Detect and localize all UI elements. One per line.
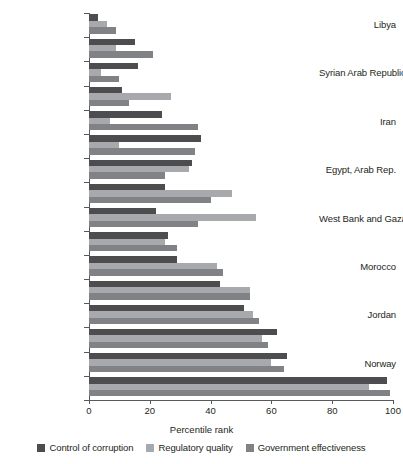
bar-row	[89, 172, 393, 178]
x-axis-tick-label: 100	[385, 405, 401, 416]
bar-group	[89, 61, 393, 85]
bar	[89, 293, 250, 299]
bar-row	[89, 148, 393, 154]
legend-item: Regulatory quality	[146, 442, 232, 453]
bar	[89, 172, 165, 178]
bar	[89, 51, 153, 57]
bar	[89, 100, 129, 106]
bar-row	[89, 245, 393, 251]
legend-label: Control of corruption	[49, 442, 133, 453]
bar-group	[89, 110, 393, 134]
bar-group	[89, 13, 393, 37]
bar-row	[89, 342, 393, 348]
bar-group	[89, 182, 393, 206]
x-axis-tick-label: 80	[327, 405, 338, 416]
bar-row	[89, 76, 393, 82]
bar	[89, 390, 390, 396]
bar-group	[89, 231, 393, 255]
bar-row	[89, 124, 393, 130]
bar-row	[89, 27, 393, 33]
bar	[89, 245, 177, 251]
bar	[89, 342, 268, 348]
legend-swatch-icon	[37, 444, 45, 452]
bar-row	[89, 318, 393, 324]
bar	[89, 269, 223, 275]
legend-item: Control of corruption	[37, 442, 133, 453]
bar	[89, 221, 198, 227]
x-axis-tick-label: 0	[86, 405, 91, 416]
bar-group	[89, 37, 393, 61]
x-axis-tick-label: 20	[145, 405, 156, 416]
bar-row	[89, 100, 393, 106]
legend-label: Government effectiveness	[258, 442, 366, 453]
bar-group	[89, 158, 393, 182]
bar-row	[89, 51, 393, 57]
bar-group	[89, 134, 393, 158]
bar	[89, 197, 211, 203]
bar-row	[89, 366, 393, 372]
bar	[89, 27, 116, 33]
plot-area	[89, 13, 393, 400]
bar-group	[89, 303, 393, 327]
x-axis-tick	[271, 400, 272, 404]
x-axis-tick	[393, 400, 394, 404]
x-axis-title: Percentile rank	[0, 424, 403, 435]
bar-group	[89, 207, 393, 231]
bar-chart: LibyaSyrian Arab RepublicIranEgypt, Arab…	[0, 0, 403, 464]
bar	[89, 318, 259, 324]
legend-swatch-icon	[146, 444, 154, 452]
x-axis-tick	[89, 400, 90, 404]
bar-row	[89, 293, 393, 299]
bar	[89, 366, 284, 372]
chart-legend: Control of corruptionRegulatory qualityG…	[0, 442, 403, 453]
bar-group	[89, 376, 393, 400]
legend-item: Government effectiveness	[246, 442, 366, 453]
bar-group	[89, 86, 393, 110]
x-axis-tick-label: 60	[266, 405, 277, 416]
bar	[89, 124, 198, 130]
bar-row	[89, 221, 393, 227]
bar-row	[89, 390, 393, 396]
x-axis-tick-label: 40	[205, 405, 216, 416]
bar-row	[89, 269, 393, 275]
bar	[89, 76, 119, 82]
x-axis-tick	[332, 400, 333, 404]
bar-row	[89, 197, 393, 203]
bar	[89, 148, 195, 154]
x-axis-tick	[150, 400, 151, 404]
bar-group	[89, 352, 393, 376]
bar-group	[89, 327, 393, 351]
bar-group	[89, 279, 393, 303]
legend-label: Regulatory quality	[158, 442, 232, 453]
bar-group	[89, 255, 393, 279]
x-axis-line	[89, 400, 393, 401]
x-axis-tick	[211, 400, 212, 404]
legend-swatch-icon	[246, 444, 254, 452]
